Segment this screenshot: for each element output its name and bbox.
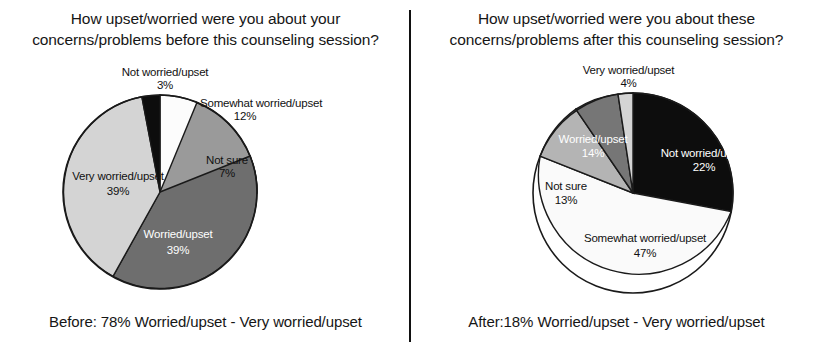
vertical-divider — [409, 10, 411, 342]
chart-panel-after: How upset/worried were you about these c… — [411, 0, 822, 342]
pie-after-label-very-worried-upset: Very worried/upset — [556, 64, 701, 78]
chart-panel-before: How upset/worried were you about your co… — [0, 0, 411, 342]
chart-title-before: How upset/worried were you about your co… — [0, 8, 411, 50]
chart-caption-before: Before: 78% Worried/upset - Very worried… — [0, 312, 411, 331]
pie-after-svg — [530, 90, 740, 300]
chart-title-after: How upset/worried were you about these c… — [411, 8, 822, 50]
pie-before-svg — [60, 92, 265, 297]
pie-chart-before — [60, 92, 265, 297]
pie-slice-not-worried-upset[interactable] — [633, 93, 733, 212]
pie-after-value-very-worried-upset: 4% — [556, 77, 701, 91]
pie-before-label-not-worried-upset: Not worried/upset — [95, 66, 235, 80]
pie-before-value-not-worried-upset: 3% — [95, 79, 235, 93]
chart-caption-after: After:18% Worried/upset - Very worried/u… — [411, 312, 822, 331]
pie-chart-after — [530, 90, 740, 300]
